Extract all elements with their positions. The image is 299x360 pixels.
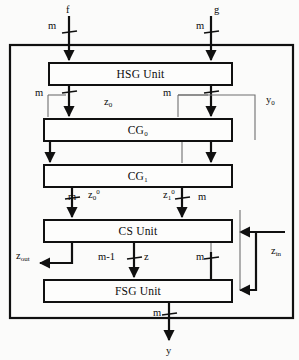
bus-width-hsg-right: m [163,88,171,99]
bus-width-cs-in-right: m [198,192,206,203]
block-cg1-label: CG₁ [128,170,149,182]
signal-label-y0: y0 [266,95,275,106]
signal-label-zin: zin [271,246,281,257]
tick-f-bus [62,31,77,33]
tick-hsg-right [204,91,219,93]
bus-width-g: m [196,21,204,32]
wire-cs-to-zout [40,243,72,263]
input-port-g-label: g [214,5,219,16]
block-cg0[interactable]: CG₀ [43,118,233,142]
bus-width-hsg-left: m [35,88,43,99]
output-port-y-label: y [166,346,171,357]
input-port-f-label: f [66,5,70,16]
tick-cs-in-right [175,197,190,199]
block-cs-label: CS Unit [119,225,158,237]
block-diagram-canvas: HSG Unit CG₀ CG₁ CS Unit FSG Unit f g y … [0,0,299,360]
tick-y-bus [162,313,177,315]
block-hsg-label: HSG Unit [117,68,165,80]
tick-fsg-right [204,257,219,259]
tick-hsg-left [62,91,77,93]
tick-z-bus [127,257,142,259]
block-fsg-label: FSG Unit [115,285,161,297]
bus-width-y: m [153,308,161,319]
block-cg0-label: CG₀ [128,124,149,136]
block-fsg-unit[interactable]: FSG Unit [43,279,233,303]
bus-width-cs-in-left: m [68,192,76,203]
signal-label-z1-sup0: z10 [163,190,175,201]
block-cg1[interactable]: CG₁ [43,164,233,188]
bus-width-z: m-1 [98,252,115,263]
wire-rail-to-fsg [240,232,256,290]
signal-label-zout: zout [16,251,30,262]
bus-width-fsg-right: m [196,252,204,263]
block-hsg-unit[interactable]: HSG Unit [48,62,233,86]
signal-label-z0-sup0: z00 [88,190,100,201]
block-cs-unit[interactable]: CS Unit [43,219,233,243]
tick-g-bus [204,31,219,33]
signal-label-z: z [144,252,149,263]
signal-label-z0: z0 [104,97,112,108]
bus-width-f: m [48,21,56,32]
